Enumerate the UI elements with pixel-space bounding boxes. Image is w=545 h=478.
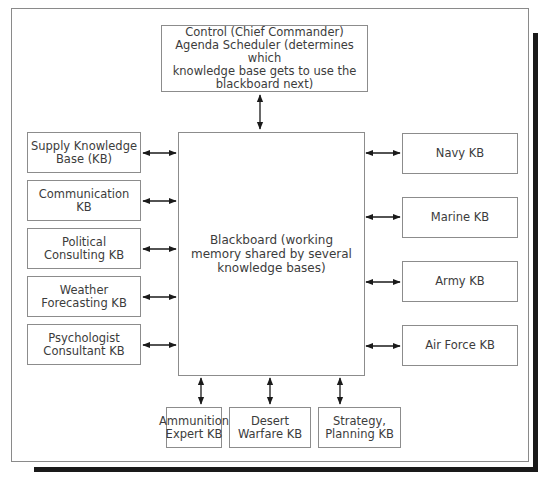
navy-kb-box: Navy KB xyxy=(402,133,518,174)
air-force-kb-box: Air Force KB xyxy=(402,325,518,366)
communication-kb-box: Communication KB xyxy=(27,180,141,221)
frame-shadow-right xyxy=(533,33,538,472)
ammunition-expert-kb-box: Ammunition Expert KB xyxy=(166,407,222,448)
strategy-planning-kb-box: Strategy, Planning KB xyxy=(318,407,401,448)
weather-forecasting-kb-box: Weather Forecasting KB xyxy=(27,276,141,317)
desert-warfare-kb-box: Desert Warfare KB xyxy=(229,407,311,448)
political-consulting-kb-box: Political Consulting KB xyxy=(27,228,141,269)
army-kb-box: Army KB xyxy=(402,261,518,302)
supply-kb-box: Supply Knowledge Base (KB) xyxy=(27,132,141,173)
control-box: Control (Chief Commander) Agenda Schedul… xyxy=(161,25,368,92)
marine-kb-box: Marine KB xyxy=(402,197,518,238)
blackboard-box: Blackboard (working memory shared by sev… xyxy=(178,132,365,376)
psychologist-consultant-kb-box: Psychologist Consultant KB xyxy=(27,324,141,365)
frame-shadow-bottom xyxy=(34,467,538,472)
